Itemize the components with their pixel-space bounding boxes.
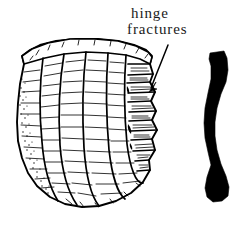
illustration-canvas xyxy=(0,0,242,225)
figure-illustration: hinge fractures xyxy=(0,0,242,225)
flaked-stone-core xyxy=(17,39,157,207)
annotation-label-line-2: fractures xyxy=(127,22,188,37)
annotation-label-line-1: hinge xyxy=(131,6,169,21)
